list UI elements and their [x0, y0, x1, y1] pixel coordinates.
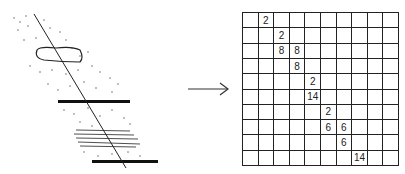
grid-cell — [368, 59, 384, 74]
grid-cell — [321, 151, 337, 166]
lens-body — [36, 47, 82, 62]
grid-cell — [290, 151, 306, 166]
grid-cell — [368, 74, 384, 89]
grid-cell — [243, 120, 259, 135]
grid-cell — [243, 59, 259, 74]
grid-cell: 6 — [337, 135, 353, 150]
grid-cell: 6 — [337, 120, 353, 135]
dark-bed-upper — [58, 100, 130, 103]
grid-cell — [337, 59, 353, 74]
grid-cell — [305, 105, 321, 120]
grid-cell — [259, 28, 275, 43]
grid-cell — [243, 44, 259, 59]
grid-cell — [383, 151, 399, 166]
grid-cell — [243, 28, 259, 43]
grid-cell: 2 — [259, 13, 275, 28]
grid-cell — [337, 13, 353, 28]
grid-cell — [290, 28, 306, 43]
grid-cell — [352, 135, 368, 150]
grid-cell — [305, 151, 321, 166]
grid-cell — [352, 59, 368, 74]
grid-cell — [368, 28, 384, 43]
grid-cell — [274, 59, 290, 74]
grid-cell — [243, 135, 259, 150]
borehole-line — [34, 14, 126, 168]
grid-cell — [305, 135, 321, 150]
grid-cell — [274, 74, 290, 89]
grid-cell — [290, 13, 306, 28]
grid-cell: 14 — [352, 151, 368, 166]
grid-cell — [259, 90, 275, 105]
grid-cell — [321, 28, 337, 43]
grid-cell — [321, 59, 337, 74]
grid-cell — [321, 74, 337, 89]
grid-cell — [290, 135, 306, 150]
grid-cell — [383, 44, 399, 59]
laminations — [74, 130, 140, 147]
grid-cell — [274, 105, 290, 120]
grid-cell — [383, 59, 399, 74]
grid-cell — [352, 74, 368, 89]
grid-cell — [274, 135, 290, 150]
dark-bed-lower — [92, 160, 158, 163]
grid-cell — [337, 74, 353, 89]
grid-cell — [243, 90, 259, 105]
grid-cell — [321, 135, 337, 150]
grid-cell — [259, 151, 275, 166]
grid-cell — [352, 120, 368, 135]
grid-cell: 2 — [274, 28, 290, 43]
grid-cell — [368, 44, 384, 59]
grid-cell — [383, 28, 399, 43]
grid-cell — [352, 13, 368, 28]
grid-cell — [305, 120, 321, 135]
grid-cell — [305, 59, 321, 74]
grid-cell — [337, 151, 353, 166]
grid-cell: 2 — [321, 105, 337, 120]
grid-cell — [274, 151, 290, 166]
grid-cell — [337, 90, 353, 105]
grid-cell — [383, 135, 399, 150]
grid-cell — [243, 74, 259, 89]
grid-cell — [290, 105, 306, 120]
right-arrow-icon — [188, 82, 232, 96]
grid-cell — [321, 13, 337, 28]
grid-cell — [305, 44, 321, 59]
grid-cell — [368, 13, 384, 28]
grid-cell — [368, 90, 384, 105]
grid-cell — [352, 28, 368, 43]
grid-cell — [305, 13, 321, 28]
geology-sketch — [0, 0, 180, 174]
grid-cell — [383, 74, 399, 89]
grid-cell — [383, 90, 399, 105]
grid-cell: 6 — [321, 120, 337, 135]
grid-cell: 8 — [290, 44, 306, 59]
grid-cell — [321, 44, 337, 59]
grid-cell — [368, 135, 384, 150]
grid-cell — [337, 44, 353, 59]
grid-cell — [259, 120, 275, 135]
grid-cell — [321, 90, 337, 105]
grid-cell — [274, 90, 290, 105]
grid-cell — [383, 105, 399, 120]
grid-cell: 8 — [274, 44, 290, 59]
grid-cell — [274, 120, 290, 135]
grid-cell — [352, 105, 368, 120]
grid-cell — [290, 90, 306, 105]
grid-cell: 2 — [305, 74, 321, 89]
grid-cell — [383, 120, 399, 135]
grid-cell — [243, 13, 259, 28]
grid-cell — [259, 59, 275, 74]
grid-cell — [243, 105, 259, 120]
grid-cell — [337, 28, 353, 43]
grid-cell — [383, 13, 399, 28]
grid-cell — [259, 105, 275, 120]
grid-cell: 14 — [305, 90, 321, 105]
grid-cell — [274, 13, 290, 28]
grid-cell — [337, 105, 353, 120]
grid-cell — [259, 135, 275, 150]
grid-cell — [259, 74, 275, 89]
grid-cell — [352, 90, 368, 105]
grid-cell — [368, 151, 384, 166]
grid-cell — [305, 28, 321, 43]
grid-cell — [368, 120, 384, 135]
